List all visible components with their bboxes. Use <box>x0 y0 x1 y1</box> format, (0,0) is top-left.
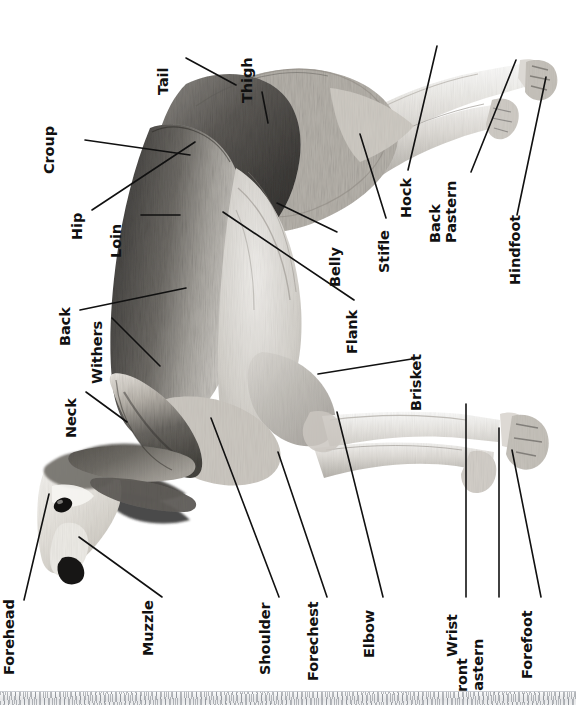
label-stifle: Stifle <box>377 230 392 273</box>
bottom-texture-strip <box>0 691 576 705</box>
label-back: Back <box>58 307 73 346</box>
label-hindfoot: Hindfoot <box>508 215 523 285</box>
label-neck: Neck <box>64 398 79 438</box>
label-shoulder: Shoulder <box>258 602 273 675</box>
label-hock: Hock <box>399 178 414 218</box>
label-thigh: Thigh <box>240 58 255 103</box>
label-muzzle: Muzzle <box>141 600 156 656</box>
label-withers: Withers <box>90 321 105 384</box>
label-forechest: Forechest <box>306 601 321 681</box>
label-forehead: Forehead <box>2 599 17 675</box>
label-elbow: Elbow <box>362 610 377 658</box>
label-croup: Croup <box>42 126 57 174</box>
label-brisket: Brisket <box>409 354 424 411</box>
label-back-pastern: Back Pastern <box>428 181 459 243</box>
anatomy-diagram-page: Tail Thigh Croup Hip Loin Hock Back Past… <box>0 0 576 705</box>
label-forefoot: Forefoot <box>520 610 535 679</box>
label-belly: Belly <box>328 247 343 287</box>
label-flank: Flank <box>345 310 360 354</box>
label-tail: Tail <box>156 68 171 95</box>
label-layer: Tail Thigh Croup Hip Loin Hock Back Past… <box>0 0 576 705</box>
label-hip: Hip <box>70 213 85 240</box>
label-loin: Loin <box>109 224 124 258</box>
